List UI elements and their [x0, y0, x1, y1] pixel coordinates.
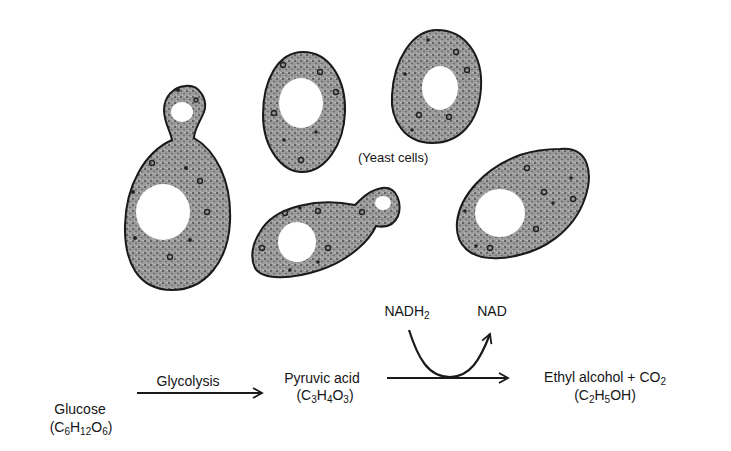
yeast-cells-label: (Yeast cells)	[358, 150, 428, 166]
ethyl-alcohol-co2-label: Ethyl alcohol + CO2	[544, 369, 666, 385]
oval-cell-top-middle	[263, 52, 345, 172]
glucose-formula: (C6H12O6)	[50, 419, 113, 435]
pyruvic-acid-formula: (C3H4O3)	[296, 387, 353, 403]
pyruvic-acid-label: Pyruvic acid	[284, 370, 359, 386]
budding-cell-bottom-middle	[252, 188, 399, 277]
yeast-fermentation-diagram: (Yeast cells) Glucose (C6H12O6) Glycolys…	[0, 0, 731, 451]
ethyl-alcohol-formula: (C2H5OH)	[574, 387, 636, 403]
budding-cell-left	[125, 86, 230, 290]
nad-label: NAD	[477, 303, 507, 319]
nadh2-label: NADH2	[384, 303, 429, 319]
oval-cell-top-right	[392, 30, 481, 143]
glycolysis-label: Glycolysis	[156, 373, 219, 389]
oval-cell-right	[457, 149, 589, 258]
nadh-to-nad-curved-arrow	[409, 330, 490, 377]
glucose-label: Glucose	[54, 401, 105, 417]
